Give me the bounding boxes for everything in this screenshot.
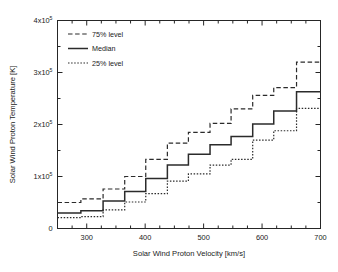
legend-label: 25% level <box>92 59 124 68</box>
y-tick-label: 4x105 <box>34 15 53 25</box>
legend-label: 75% level <box>92 30 124 39</box>
x-tick-label: 400 <box>139 233 151 242</box>
y-tick-label: 2x105 <box>34 119 53 129</box>
x-axis-tick-labels: 300400500600700 <box>81 233 327 242</box>
legend-label: Median <box>92 44 116 53</box>
y-tick-label: 3x105 <box>34 67 53 77</box>
series-solid <box>58 92 321 213</box>
y-tick-label: 1x105 <box>34 171 53 181</box>
figure-panel: 300400500600700 01x1052x1053x1054x105 75… <box>0 0 338 272</box>
x-tick-label: 300 <box>81 233 93 242</box>
step-chart: 300400500600700 01x1052x1053x1054x105 75… <box>0 0 338 272</box>
y-axis-tick-labels: 01x1052x1053x1054x105 <box>34 15 53 233</box>
series-group <box>58 62 321 217</box>
y-tick-label: 0 <box>48 224 52 233</box>
x-axis-title: Solar Wind Proton Velocity [km/s] <box>133 249 245 258</box>
x-tick-label: 600 <box>256 233 268 242</box>
x-tick-label: 700 <box>314 233 326 242</box>
y-axis-title: Solar Wind Proton Temperature [K] <box>8 66 17 184</box>
legend: 75% levelMedian25% level <box>68 30 124 68</box>
x-tick-label: 500 <box>197 233 209 242</box>
series-dashed <box>58 62 321 202</box>
